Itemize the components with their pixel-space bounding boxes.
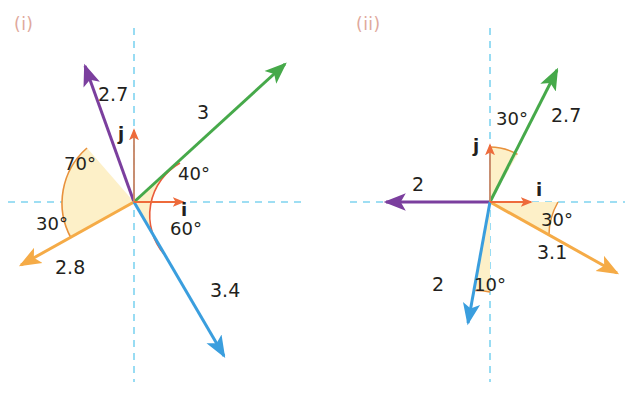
panel-ii: (ii) 2 2.7 3.1 2 30° 30° 10° i j <box>0 0 633 393</box>
magnitude-label-orange: 3.1 <box>537 241 567 263</box>
vector-diagram-figure: (i) 2.7 3 2.8 3.4 70° 30° 40° 60° i j <box>0 0 633 393</box>
unit-label-j: j <box>472 135 479 156</box>
vector-green-2p7 <box>490 70 557 202</box>
angle-label-30-orange: 30° <box>541 209 573 230</box>
unit-label-i: i <box>536 179 542 200</box>
magnitude-label-purple: 2 <box>412 173 424 195</box>
magnitude-label-green: 2.7 <box>551 104 581 126</box>
angle-label-10-blue: 10° <box>474 274 506 295</box>
panel-label-ii: (ii) <box>356 14 381 34</box>
angle-label-30-green: 30° <box>496 108 528 129</box>
magnitude-label-blue: 2 <box>432 273 444 295</box>
